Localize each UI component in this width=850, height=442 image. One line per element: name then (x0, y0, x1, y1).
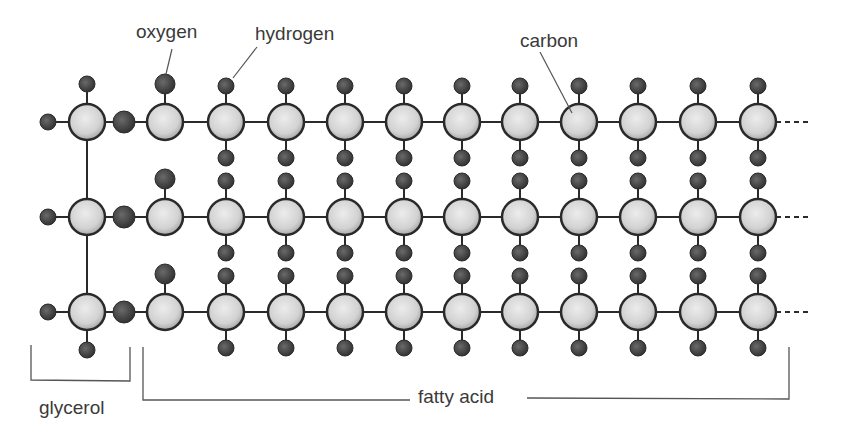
hydrogen-atom (454, 150, 470, 166)
hydrogen-atom (454, 245, 470, 261)
carbon-atom (444, 294, 480, 330)
hydrogen-label: hydrogen (255, 24, 334, 43)
oxygen-atom (155, 74, 175, 94)
hydrogen-atom (571, 340, 587, 356)
hydrogen-atom (40, 304, 56, 320)
hydrogen-atom (690, 245, 706, 261)
hydrogen-atom (396, 340, 412, 356)
carbon-atom (386, 199, 422, 235)
hydrogen-atom (218, 173, 234, 189)
hydrogen-atom (630, 150, 646, 166)
carbon-atom (444, 104, 480, 140)
hydrogen-atom (79, 342, 95, 358)
hydrogen-atom (571, 268, 587, 284)
carbon-atom (327, 104, 363, 140)
hydrogen-atom (396, 245, 412, 261)
carbon-atom (386, 294, 422, 330)
hydrogen-atom (396, 150, 412, 166)
hydrogen-atom (750, 340, 766, 356)
hydrogen-atom (454, 78, 470, 94)
triglyceride-diagram: oxygen hydrogen carbon glycerol fatty ac… (0, 0, 850, 442)
hydrogen-atom (218, 78, 234, 94)
carbon-atom (620, 199, 656, 235)
carbon-atom (740, 294, 776, 330)
carbon-atom (69, 104, 105, 140)
hydrogen-atom (750, 245, 766, 261)
oxygen-leader-line (166, 49, 172, 74)
carbon-atom (740, 104, 776, 140)
hydrogen-atom (571, 78, 587, 94)
hydrogen-atom (337, 268, 353, 284)
hydrogen-atom (218, 245, 234, 261)
hydrogen-atom (396, 268, 412, 284)
glycerol-label: glycerol (39, 398, 104, 417)
hydrogen-atom (512, 245, 528, 261)
carbon-atom (502, 104, 538, 140)
hydrogen-atom (454, 268, 470, 284)
carbon-atom (620, 294, 656, 330)
hydrogen-atom (750, 150, 766, 166)
hydrogen-atom (630, 173, 646, 189)
hydrogen-atom (571, 245, 587, 261)
hydrogen-atom (278, 340, 294, 356)
carbon-atom (208, 104, 244, 140)
hydrogen-atom (337, 78, 353, 94)
hydrogen-atom (571, 150, 587, 166)
carbon-atom (327, 199, 363, 235)
hydrogen-atom (337, 340, 353, 356)
carbon-atom (208, 199, 244, 235)
hydrogen-atom (278, 150, 294, 166)
carbon-atom (680, 104, 716, 140)
carbon-atom (561, 104, 597, 140)
carbon-atom (268, 104, 304, 140)
carbon-atom (444, 199, 480, 235)
hydrogen-atom (396, 173, 412, 189)
hydrogen-atom (278, 268, 294, 284)
hydrogen-atom (690, 340, 706, 356)
carbon-atom (268, 294, 304, 330)
hydrogen-atom (512, 78, 528, 94)
fatty-acid-bracket-left (143, 347, 410, 400)
hydrogen-atom (630, 340, 646, 356)
hydrogen-atom (750, 268, 766, 284)
carbon-leader-line (540, 52, 572, 113)
hydrogen-atom (750, 78, 766, 94)
hydrogen-atom (79, 76, 95, 92)
molecule-svg (0, 0, 850, 442)
carbon-atom (502, 294, 538, 330)
hydrogen-atom (690, 150, 706, 166)
carbon-atom (69, 294, 105, 330)
carbon-label: carbon (520, 31, 578, 50)
fatty-acid-bracket-right (527, 347, 789, 399)
hydrogen-atom (630, 245, 646, 261)
hydrogen-atom (396, 78, 412, 94)
hydrogen-atom (40, 114, 56, 130)
hydrogen-atom (690, 268, 706, 284)
hydrogen-atom (278, 78, 294, 94)
oxygen-atom (113, 206, 135, 228)
oxygen-label: oxygen (136, 22, 197, 41)
hydrogen-atom (278, 245, 294, 261)
fatty-acid-label: fatty acid (418, 387, 494, 406)
hydrogen-atom (278, 173, 294, 189)
hydrogen-atom (512, 150, 528, 166)
hydrogen-atom (690, 173, 706, 189)
hydrogen-atom (218, 268, 234, 284)
hydrogen-atom (337, 245, 353, 261)
carbon-atom (268, 199, 304, 235)
oxygen-atom (155, 264, 175, 284)
carbon-atom (561, 294, 597, 330)
hydrogen-atom (337, 173, 353, 189)
oxygen-atom (155, 169, 175, 189)
carbon-atom (502, 199, 538, 235)
hydrogen-atom (218, 150, 234, 166)
hydrogen-atom (512, 173, 528, 189)
carbon-atom (680, 294, 716, 330)
hydrogen-atom (337, 150, 353, 166)
hydrogen-leader-line (233, 47, 257, 78)
hydrogen-atom (512, 340, 528, 356)
carbon-atom (69, 199, 105, 235)
carbon-atom (147, 294, 183, 330)
hydrogen-atom (690, 78, 706, 94)
carbon-atom (680, 199, 716, 235)
